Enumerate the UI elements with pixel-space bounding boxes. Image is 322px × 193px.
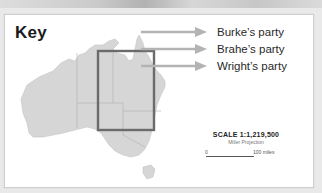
scale-line	[206, 156, 254, 157]
scale-title: SCALE 1:1,219,500	[201, 131, 291, 138]
arrow-right-icon	[141, 44, 207, 54]
scale-end-label: 100 miles	[253, 149, 274, 155]
background-strip	[0, 0, 322, 8]
key-title: Key	[15, 23, 47, 43]
legend-label: Brahe’s party	[217, 43, 285, 55]
legend: Burke’s party Brahe’s party Wright’s par…	[141, 23, 287, 74]
legend-item-brahe: Brahe’s party	[141, 40, 287, 57]
scale-start-label: 0	[205, 149, 208, 155]
legend-item-wright: Wright’s party	[141, 57, 287, 74]
map-key-card: Key Burke’s party Brahe’s party Wright’s…	[4, 14, 314, 188]
legend-label: Burke’s party	[217, 26, 284, 38]
legend-label: Wright’s party	[217, 60, 287, 72]
scale-bar: 0 100 miles	[201, 149, 291, 159]
tasmania-shape	[143, 165, 155, 179]
projection-label: Miller Projection	[201, 139, 291, 145]
scale-block: SCALE 1:1,219,500 Miller Projection 0 10…	[201, 131, 291, 145]
arrow-right-icon	[141, 61, 207, 71]
legend-item-burke: Burke’s party	[141, 23, 287, 40]
arrow-right-icon	[141, 27, 207, 37]
